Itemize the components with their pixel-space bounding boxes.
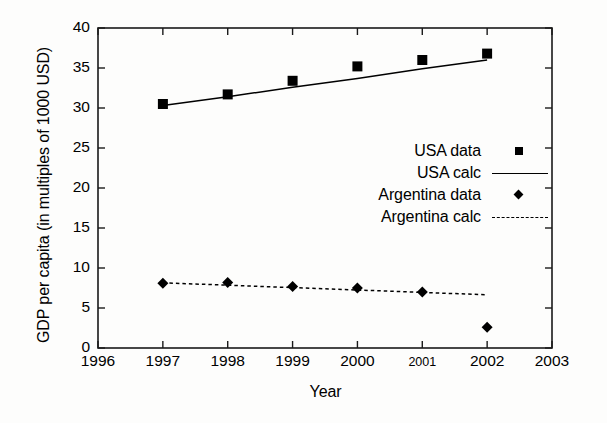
data-point (417, 287, 428, 298)
line-usa-calc (163, 60, 487, 106)
y-tick-label-5: 5 (56, 298, 90, 316)
data-point (482, 322, 493, 333)
data-point (288, 76, 298, 86)
diamond-marker-icon (514, 190, 524, 200)
x-tick-label-1998: 1998 (198, 352, 258, 370)
data-point (223, 89, 233, 99)
data-point (287, 281, 298, 292)
x-axis-title: Year (98, 383, 553, 401)
legend-key-square-marker (490, 141, 550, 161)
legend-label: USA data (414, 142, 481, 160)
legend-entry: Argentina calc (300, 206, 550, 228)
y-tick-label-30: 30 (56, 98, 90, 116)
x-tick-label-2003: 2003 (522, 352, 582, 370)
data-point (482, 49, 492, 59)
legend-label: Argentina data (378, 186, 481, 204)
data-point (417, 55, 427, 65)
legend-entry: Argentina data (300, 184, 550, 206)
legend-key-solid-line (490, 163, 550, 183)
data-point (352, 61, 362, 71)
x-tick-label-1999: 1999 (263, 352, 323, 370)
x-tick-label-1997: 1997 (133, 352, 193, 370)
y-tick-label-10: 10 (56, 258, 90, 276)
data-point (158, 99, 168, 109)
legend-entry: USA calc (300, 162, 550, 184)
y-tick-label-0: 0 (56, 338, 90, 356)
chart-legend: USA dataUSA calcArgentina dataArgentina … (300, 140, 550, 228)
y-tick-label-35: 35 (56, 58, 90, 76)
legend-key-diamond-marker (490, 185, 550, 205)
legend-key-dashed-line (490, 207, 550, 227)
legend-label: Argentina calc (381, 208, 481, 226)
data-point (222, 277, 233, 288)
line-argentina-calc (163, 283, 487, 295)
y-tick-label-40: 40 (56, 18, 90, 36)
x-tick-label-2002: 2002 (457, 352, 517, 370)
gdp-per-capita-chart: GDP per capita (in multiples of 1000 USD… (0, 0, 607, 423)
x-tick-label-2000: 2000 (327, 352, 387, 370)
square-marker-icon (515, 147, 523, 155)
x-tick-label-2001: 2001 (392, 355, 452, 369)
solid-line-icon (492, 173, 548, 174)
data-point (352, 283, 363, 294)
y-tick-label-25: 25 (56, 138, 90, 156)
dashed-line-icon (492, 217, 548, 218)
y-tick-label-20: 20 (56, 178, 90, 196)
legend-label: USA calc (417, 164, 481, 182)
y-axis-title: GDP per capita (in multiples of 1000 USD… (35, 30, 53, 360)
legend-entry: USA data (300, 140, 550, 162)
data-point (157, 278, 168, 289)
y-tick-label-15: 15 (56, 218, 90, 236)
